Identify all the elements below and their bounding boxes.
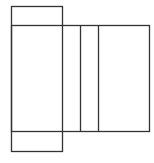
tall-rectangle <box>12 7 63 152</box>
diagram-canvas <box>0 0 154 163</box>
shape-diagram <box>0 0 154 163</box>
